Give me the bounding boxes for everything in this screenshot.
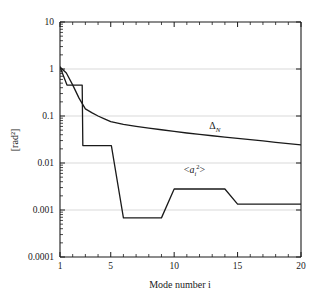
figure-container: 1010.10.010.0010.0001 15101520 [rad²] Mo…	[0, 0, 323, 299]
x-tick-label: 20	[296, 261, 306, 271]
log-line-chart: 1010.10.010.0010.0001 15101520 [rad²] Mo…	[0, 0, 323, 299]
y-tick-label: 0.0001	[28, 252, 54, 262]
x-tick-label: 15	[233, 261, 243, 271]
y-tick-label: 1	[49, 64, 54, 74]
x-tick-label: 10	[169, 261, 179, 271]
y-tick-label: 0.01	[37, 158, 54, 168]
y-tick-label: 0.001	[33, 205, 55, 215]
y-axis-title: [rad²]	[9, 129, 20, 151]
y-tick-label: 0.1	[42, 111, 54, 121]
x-axis-title: Mode number i	[149, 279, 211, 290]
y-tick-label: 10	[45, 17, 55, 27]
x-tick-label: 1	[58, 261, 63, 271]
x-tick-label: 5	[108, 261, 113, 271]
